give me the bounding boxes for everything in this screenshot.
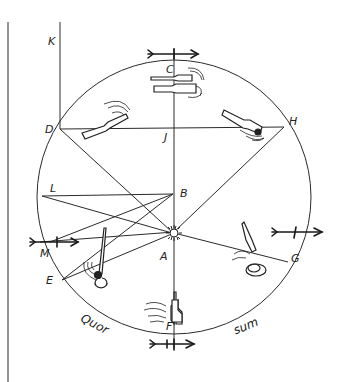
line-L-B	[42, 194, 173, 196]
arrow-bottom	[150, 339, 194, 350]
tube-figure-upper-left	[82, 101, 130, 139]
label-A: A	[160, 251, 168, 262]
arrow-top	[148, 49, 198, 59]
label-K: K	[48, 36, 55, 47]
label-J: J	[164, 132, 167, 143]
line-H-A	[174, 127, 284, 232]
label-F: F	[166, 321, 172, 332]
label-E: E	[46, 275, 53, 286]
line-B-M	[50, 194, 173, 242]
label-G: G	[291, 253, 300, 264]
label-D: D	[45, 124, 53, 135]
line-E-A	[62, 233, 174, 280]
label-H: H	[289, 116, 297, 127]
arrow-right	[272, 227, 322, 238]
tube-figure-top	[151, 68, 204, 98]
tube-figure-bottom	[144, 292, 182, 324]
label-M: M	[40, 248, 50, 259]
tube-figure-upper-right	[222, 110, 264, 141]
label-B: B	[180, 188, 188, 199]
tube-figure-left	[84, 228, 107, 288]
sun-icon	[166, 225, 182, 241]
line-A-G	[174, 233, 288, 262]
arrow-left	[30, 237, 78, 247]
label-L: L	[50, 183, 56, 194]
label-C: C	[166, 64, 174, 75]
line-M-A	[40, 232, 174, 242]
